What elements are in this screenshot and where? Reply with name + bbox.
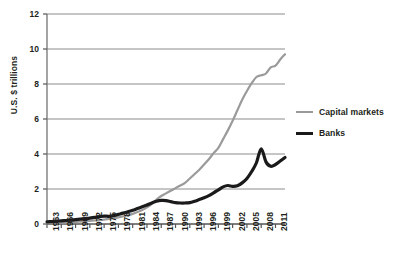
y-tick-label: 10 [23,44,39,54]
x-tick-label: 1972 [94,212,104,231]
chart-figure: U.S. $ trillions 024681012 1963196619691… [0,0,403,278]
series-line-banks [47,149,285,222]
legend-label-capital-markets: Capital markets [319,107,384,117]
x-tick-label: 1990 [180,212,190,231]
x-tick-label: 1981 [137,212,147,231]
x-tick-label: 2011 [279,213,289,231]
y-tick-label: 4 [23,149,39,159]
x-tick-label: 1993 [194,212,204,231]
legend-item-capital-markets: Capital markets [296,104,384,120]
x-tick-label: 2008 [265,212,275,231]
chart-legend: Capital markets Banks [296,104,384,146]
legend-label-banks: Banks [319,128,345,138]
y-tick-label: 6 [23,114,39,124]
legend-swatch-banks [296,132,313,135]
x-tick-label: 1999 [222,212,232,231]
series-line-capital-markets [47,54,285,223]
y-axis-title: U.S. $ trillions [9,15,19,155]
x-tick-label: 1975 [108,212,118,231]
x-tick-label: 1978 [122,212,132,231]
y-tick-label: 8 [23,79,39,89]
series-lines [47,54,285,223]
x-tick-label: 1984 [151,212,161,231]
gridlines [47,14,285,189]
y-tick-label: 2 [23,184,39,194]
x-tick-label: 1966 [65,212,75,231]
x-tick-label: 1969 [80,212,90,231]
legend-item-banks: Banks [296,125,384,141]
x-tick-label: 2002 [237,212,247,231]
legend-swatch-capital-markets [296,111,313,113]
x-tick-label: 1996 [208,212,218,231]
x-tick-label: 1987 [165,212,175,231]
x-tick-label: 2005 [251,212,261,231]
y-tick-label: 0 [23,219,39,229]
x-tick-label: 1963 [51,212,61,231]
y-tick-label: 12 [23,9,39,19]
